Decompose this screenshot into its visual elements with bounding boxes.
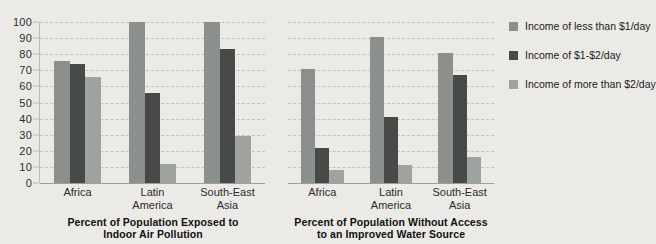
y-tick-label: 50	[19, 97, 32, 109]
category-labels-panel-2: AfricaLatinAmericaSouth-EastAsia	[288, 186, 494, 216]
legend-label: Income of less than $1/day	[525, 20, 651, 32]
bar[interactable]	[220, 49, 236, 183]
plot-area-indoor-air-pollution	[40, 22, 265, 183]
bar[interactable]	[129, 22, 145, 183]
axis-baseline	[288, 183, 494, 184]
y-tick-mark	[33, 86, 39, 87]
bar[interactable]	[329, 170, 343, 183]
chart-legend: Income of less than $1/dayIncome of $1-$…	[509, 20, 647, 107]
y-tick-label: 70	[19, 64, 32, 76]
bar[interactable]	[398, 165, 412, 183]
y-tick-label: 20	[19, 145, 32, 157]
bar[interactable]	[453, 75, 467, 183]
bar[interactable]	[384, 117, 398, 183]
category-label-line: Asia	[190, 199, 265, 212]
category-label-line: Africa	[40, 186, 115, 199]
bar-group	[438, 22, 481, 183]
bars	[370, 22, 413, 183]
y-tick-mark	[33, 54, 39, 55]
bar[interactable]	[315, 148, 329, 183]
panel-2-caption-line-1: Percent of Population Without Access	[272, 216, 510, 228]
panel-1-caption-line-2: Indoor Air Pollution	[22, 228, 284, 240]
bars	[301, 22, 344, 183]
category-label-line: South-East	[190, 186, 265, 199]
bar[interactable]	[54, 61, 70, 183]
y-tick-mark	[33, 38, 39, 39]
y-tick-label: 90	[19, 32, 32, 44]
category-label: LatinAmerica	[357, 186, 426, 212]
category-label: Africa	[40, 186, 115, 199]
bar[interactable]	[370, 37, 384, 184]
y-tick-mark	[33, 183, 39, 184]
category-label: South-EastAsia	[425, 186, 494, 212]
bar[interactable]	[235, 136, 251, 183]
legend-label: Income of more than $2/day	[525, 78, 656, 90]
y-tick-label: 10	[19, 161, 32, 173]
bars	[438, 22, 481, 183]
bar-group	[129, 22, 176, 183]
panel-2-caption-line-2: to an Improved Water Source	[272, 228, 510, 240]
category-label: South-EastAsia	[190, 186, 265, 212]
axis-baseline	[40, 183, 265, 184]
y-tick-label: 40	[19, 113, 32, 125]
y-tick-mark	[33, 22, 39, 23]
y-tick-mark	[33, 150, 39, 151]
category-label: LatinAmerica	[115, 186, 190, 212]
y-tick-mark	[33, 118, 39, 119]
category-label-line: Latin	[115, 186, 190, 199]
category-label-line: Asia	[425, 199, 494, 212]
bars	[204, 22, 251, 183]
bars	[129, 22, 176, 183]
bar[interactable]	[85, 77, 101, 183]
legend-item[interactable]: Income of less than $1/day	[509, 20, 647, 32]
bars	[54, 22, 101, 183]
bar[interactable]	[160, 164, 176, 183]
legend-swatch-icon	[509, 51, 518, 60]
category-label-line: South-East	[425, 186, 494, 199]
bar-group	[204, 22, 251, 183]
y-axis-tick-labels: 1009080706050403020100	[0, 22, 36, 183]
bar-group	[54, 22, 101, 183]
legend-swatch-icon	[509, 22, 518, 31]
plot-area-water-source	[288, 22, 494, 183]
y-tick-label: 100	[13, 16, 32, 28]
bar-group	[301, 22, 344, 183]
category-label-line: America	[115, 199, 190, 212]
panel-2-caption: Percent of Population Without Access to …	[272, 216, 510, 240]
y-tick-label: 80	[19, 48, 32, 60]
bar[interactable]	[438, 53, 452, 183]
category-label-line: Africa	[288, 186, 357, 199]
legend-item[interactable]: Income of $1-$2/day	[509, 49, 647, 61]
panel-1-caption: Percent of Population Exposed to Indoor …	[22, 216, 284, 240]
category-labels-panel-1: AfricaLatinAmericaSouth-EastAsia	[40, 186, 265, 216]
bar-group	[370, 22, 413, 183]
y-tick-label: 60	[19, 80, 32, 92]
category-label-line: Latin	[357, 186, 426, 199]
y-tick-mark	[33, 134, 39, 135]
y-tick-label: 0	[26, 177, 32, 189]
legend-swatch-icon	[509, 80, 518, 89]
category-label: Africa	[288, 186, 357, 199]
bar[interactable]	[145, 93, 161, 183]
bar[interactable]	[70, 64, 86, 183]
panel-1-caption-line-1: Percent of Population Exposed to	[22, 216, 284, 228]
legend-item[interactable]: Income of more than $2/day	[509, 78, 647, 90]
y-tick-label: 30	[19, 129, 32, 141]
y-tick-mark	[33, 70, 39, 71]
bar[interactable]	[301, 69, 315, 183]
y-tick-mark	[33, 102, 39, 103]
bar[interactable]	[204, 22, 220, 183]
bar[interactable]	[467, 157, 481, 183]
legend-label: Income of $1-$2/day	[525, 49, 621, 61]
category-label-line: America	[357, 199, 426, 212]
y-tick-mark	[33, 166, 39, 167]
